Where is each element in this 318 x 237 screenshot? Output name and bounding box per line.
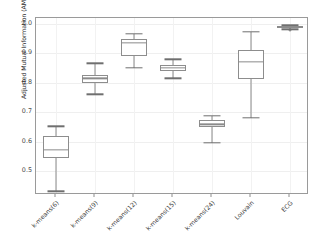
- x-tick-label-text: k-means(9): [68, 199, 98, 229]
- whisker-cap-lower: [125, 67, 142, 68]
- plot-panel: [35, 17, 308, 194]
- boxplot-box-group: [192, 18, 231, 193]
- x-tick-mark: [210, 194, 211, 197]
- y-tick-label: 0.9: [12, 48, 32, 56]
- whisker-lower: [211, 127, 212, 143]
- outlier-point: [288, 29, 291, 32]
- x-tick-mark: [288, 194, 289, 197]
- x-tick-mark: [132, 194, 133, 197]
- boxplot-box-group: [153, 18, 192, 193]
- whisker-cap-lower: [242, 117, 259, 118]
- whisker-cap-upper: [47, 126, 64, 127]
- median-line: [238, 61, 264, 62]
- box-iqr: [43, 136, 69, 158]
- whisker-cap-lower: [164, 78, 181, 79]
- x-tick-label-text: k-means(24): [183, 199, 216, 232]
- whisker-lower: [250, 79, 251, 118]
- median-line: [160, 67, 186, 68]
- boxplot-box-group: [114, 18, 153, 193]
- y-tick-label: 0.8: [12, 78, 32, 86]
- whisker-lower: [94, 83, 95, 95]
- whisker-cap-lower: [47, 190, 64, 191]
- whisker-cap-lower: [86, 94, 103, 95]
- y-tick-label: 0.5: [12, 166, 32, 174]
- median-line: [199, 124, 225, 125]
- whisker-cap-upper: [242, 31, 259, 32]
- whisker-upper: [250, 32, 251, 50]
- median-line: [82, 78, 108, 79]
- y-tick-label: 0.7: [12, 107, 32, 115]
- whisker-cap-upper: [203, 115, 220, 116]
- whisker-lower: [55, 158, 56, 191]
- whisker-cap-upper: [86, 63, 103, 64]
- x-tick-mark: [54, 194, 55, 197]
- box-iqr: [238, 50, 264, 80]
- boxplot-box-group: [231, 18, 270, 193]
- x-tick-label-text: k-means(12): [105, 199, 138, 232]
- boxplot-box-group: [75, 18, 114, 193]
- median-line: [277, 26, 303, 27]
- median-line: [43, 149, 69, 150]
- y-tick-label: 0.6: [12, 137, 32, 145]
- x-tick-mark: [249, 194, 250, 197]
- x-tick-label-text: ECG: [279, 199, 293, 213]
- whisker-cap-upper: [164, 59, 181, 60]
- median-line: [121, 42, 147, 43]
- whisker-cap-lower: [203, 142, 220, 143]
- whisker-cap-upper: [125, 33, 142, 34]
- whisker-upper: [94, 63, 95, 75]
- x-tick-mark: [171, 194, 172, 197]
- x-tick-label-text: k-means(6): [29, 199, 59, 229]
- y-tick-label: 1.0: [12, 19, 32, 27]
- boxplot-box-group: [270, 18, 308, 193]
- x-tick-label-text: k-means(15): [144, 199, 177, 232]
- y-axis-ticks: 0.50.60.70.80.91.0: [12, 0, 32, 237]
- boxplot-figure: Adjusted Mutual Information (AMI) 0.50.6…: [0, 0, 318, 237]
- x-tick-label-text: Louvain: [232, 199, 254, 221]
- boxplot-box-group: [36, 18, 75, 193]
- x-tick-mark: [93, 194, 94, 197]
- whisker-upper: [55, 126, 56, 136]
- box-iqr: [121, 39, 147, 57]
